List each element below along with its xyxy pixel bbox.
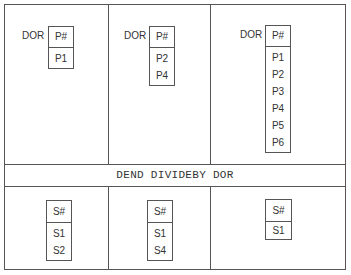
divider-top-1 [108, 4, 109, 164]
relation-row: P4 [266, 100, 290, 117]
relation-row: S2 [47, 242, 71, 259]
relation-header: P# [49, 27, 73, 48]
divider-caption-bottom [4, 186, 346, 187]
relation-row: S1 [148, 225, 172, 242]
relation-row: P6 [266, 134, 290, 151]
relation-row: S1 [47, 225, 71, 242]
relation-row: P2 [266, 66, 290, 83]
divisor-label: DOR [22, 26, 44, 46]
relation-header: S# [266, 200, 291, 222]
divider-top-2 [210, 4, 211, 164]
relation-row: P3 [266, 83, 290, 100]
relation-header: P# [266, 26, 290, 47]
relation-row: P4 [150, 67, 174, 84]
result-relation-1: S# S1 S2 [46, 200, 72, 261]
divisor-relation-2: P# P2 P4 [149, 26, 175, 86]
divisor-relation-1: P# P1 [48, 26, 74, 69]
divisor-label: DOR [124, 26, 146, 46]
relation-row: P1 [49, 50, 73, 67]
result-relation-3: S# S1 [265, 199, 292, 240]
divider-bottom-2 [210, 186, 211, 270]
relation-row: S4 [148, 242, 172, 259]
divisor-relation-3: P# P1 P2 P3 P4 P5 P6 [265, 25, 291, 153]
relation-header: P# [150, 27, 174, 48]
relation-header: S# [47, 201, 71, 223]
relation-row: P5 [266, 117, 290, 134]
relation-row: P2 [150, 50, 174, 67]
relation-row: S1 [266, 222, 291, 239]
divisor-label: DOR [240, 25, 262, 45]
divider-bottom-1 [108, 186, 109, 270]
result-relation-2: S# S1 S4 [147, 200, 173, 261]
relation-header: S# [148, 201, 172, 223]
relation-row: P1 [266, 49, 290, 66]
operation-caption: DEND DIVIDEBY DOR [4, 164, 346, 186]
